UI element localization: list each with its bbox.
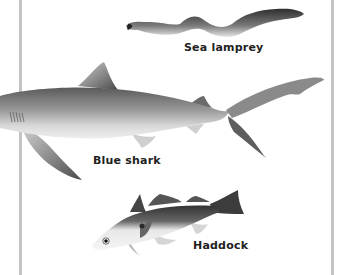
sea-lamprey-label: Sea lamprey <box>184 41 263 54</box>
blue-shark-image <box>0 62 324 180</box>
sea-lamprey-image <box>126 9 304 37</box>
fish-illustrations <box>0 0 339 275</box>
blue-shark-label: Blue shark <box>93 154 161 167</box>
haddock-label: Haddock <box>193 239 248 252</box>
